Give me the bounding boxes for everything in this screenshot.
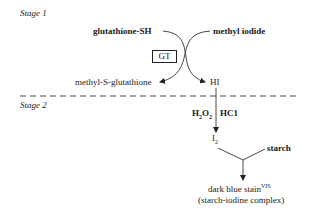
cosubstrate-starch: starch bbox=[267, 143, 291, 153]
line-i2-to-junction bbox=[218, 148, 243, 160]
reagent-h2o2: H2O2 bbox=[192, 108, 212, 118]
reactant-glutathione-sh: glutathione-SH bbox=[93, 26, 152, 36]
result-dark-blue-stain: dark blue stainVIS bbox=[208, 184, 271, 194]
intermediate-i2: I2 bbox=[212, 133, 218, 143]
enzyme-gt-box: GT bbox=[152, 50, 177, 63]
line-starch-to-junction bbox=[243, 149, 265, 160]
result-note: (starch-iodine complex) bbox=[198, 195, 284, 205]
stage2-label: Stage 2 bbox=[20, 100, 47, 110]
stage1-label: Stage 1 bbox=[20, 8, 47, 18]
product-hi: HI bbox=[210, 77, 220, 87]
product-methyl-s-glutathione: methyl-S-glutathione bbox=[75, 77, 152, 87]
reactant-methyl-iodide: methyl iodide bbox=[213, 26, 265, 36]
reagent-hcl: HC1 bbox=[220, 108, 238, 118]
